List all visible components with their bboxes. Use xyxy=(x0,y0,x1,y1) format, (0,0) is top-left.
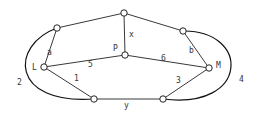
label-3: 3 xyxy=(176,76,181,85)
label-a: a xyxy=(47,48,52,57)
label-4: 4 xyxy=(239,75,244,84)
node-y2 xyxy=(160,96,166,102)
node-y1 xyxy=(91,96,97,102)
label-5: 5 xyxy=(88,60,93,69)
label-b: b xyxy=(189,46,194,55)
node-l xyxy=(41,64,47,70)
edge-3 xyxy=(163,68,209,99)
edge-b xyxy=(183,31,209,68)
edge-x xyxy=(124,13,125,55)
node-p xyxy=(122,52,128,58)
label-6: 6 xyxy=(161,54,166,63)
node-b xyxy=(180,28,186,34)
label-1: 1 xyxy=(74,74,79,83)
edge-a-top xyxy=(57,13,124,28)
edge-5 xyxy=(44,55,125,67)
graph-diagram: L P M x y a b 1 2 3 4 5 6 xyxy=(0,0,257,117)
edge-1 xyxy=(44,67,94,99)
label-M: M xyxy=(216,61,221,70)
label-2: 2 xyxy=(17,78,22,87)
node-m xyxy=(206,65,212,71)
label-L: L xyxy=(32,63,37,72)
node-a xyxy=(54,25,60,31)
label-x: x xyxy=(129,30,134,39)
edge-top-b xyxy=(124,13,183,31)
node-top xyxy=(121,10,127,16)
label-P: P xyxy=(113,44,118,53)
edge-6 xyxy=(125,55,209,68)
label-y: y xyxy=(124,101,129,110)
